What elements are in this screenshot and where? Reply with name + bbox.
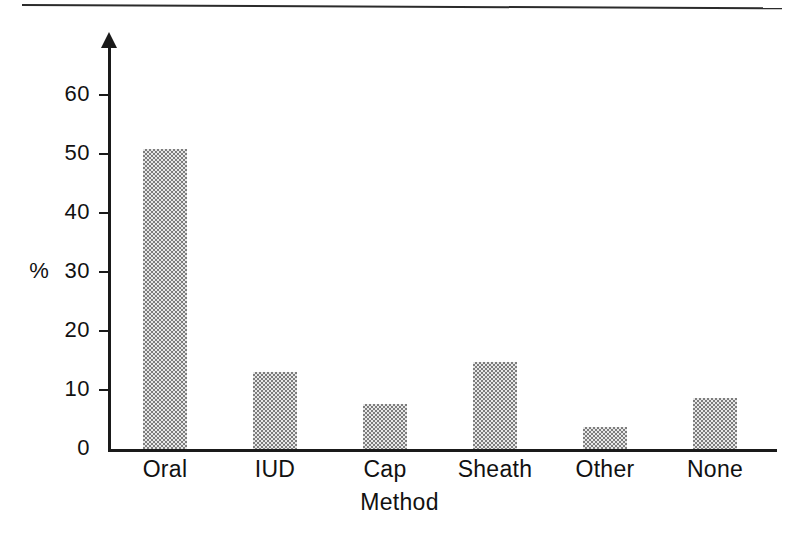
y-tick-label-20: 20 — [46, 317, 90, 343]
y-tick-label-wrap-30: 30 — [40, 258, 90, 284]
y-tick-50 — [99, 153, 108, 155]
y-tick-label-0: 0 — [46, 435, 90, 461]
y-tick-30 — [99, 271, 108, 273]
bar-sheath — [473, 362, 517, 449]
bar-none — [693, 398, 737, 449]
x-tick-label-cap: Cap — [325, 456, 445, 483]
x-tick-label-none: None — [655, 456, 775, 483]
y-tick-label-60: 60 — [46, 81, 90, 107]
y-axis-line — [108, 40, 111, 451]
x-tick-label-sheath: Sheath — [435, 456, 555, 483]
y-tick-label-wrap-40: 40 — [40, 199, 90, 225]
y-tick-label-wrap-50: 50 — [40, 140, 90, 166]
x-tick-label-other: Other — [545, 456, 665, 483]
bar-iud — [253, 372, 297, 449]
y-tick-60 — [99, 94, 108, 96]
y-tick-40 — [99, 212, 108, 214]
y-tick-label-10: 10 — [46, 376, 90, 402]
y-tick-label-wrap-10: 10 — [40, 376, 90, 402]
bar-cap — [363, 404, 407, 449]
y-tick-10 — [99, 389, 108, 391]
bar-other — [583, 427, 627, 449]
y-tick-label-wrap-0: 0 — [40, 435, 90, 461]
x-axis-title: Method — [0, 489, 799, 516]
x-tick-label-iud: IUD — [215, 456, 335, 483]
chart-figure: % 60 50 40 30 20 10 0 — [0, 0, 799, 534]
y-tick-label-50: 50 — [46, 140, 90, 166]
x-axis-line — [108, 449, 777, 452]
y-tick-label-40: 40 — [46, 199, 90, 225]
bar-oral — [143, 149, 187, 449]
y-tick-label-wrap-60: 60 — [40, 81, 90, 107]
x-tick-label-oral: Oral — [105, 456, 225, 483]
plot-area: % 60 50 40 30 20 10 0 — [0, 0, 799, 534]
y-axis-arrow-icon — [101, 32, 117, 48]
y-tick-label-30: 30 — [46, 258, 90, 284]
y-tick-20 — [99, 330, 108, 332]
y-tick-label-wrap-20: 20 — [40, 317, 90, 343]
